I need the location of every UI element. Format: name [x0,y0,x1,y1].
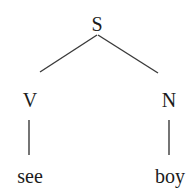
node-v: V [23,90,37,110]
edge-s-n [98,35,158,73]
terminal-see: see [17,166,43,186]
node-s: S [91,14,102,34]
syntax-tree-diagram: S V N see boy [0,0,196,196]
node-n: N [162,90,176,110]
terminal-boy: boy [155,166,185,186]
edge-s-v [40,35,97,72]
